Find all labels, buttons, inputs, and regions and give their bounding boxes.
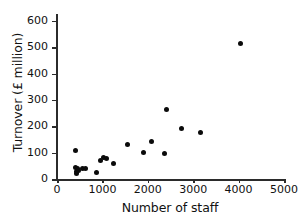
- data-point: [80, 166, 85, 171]
- x-tick-label: 5000: [254, 183, 299, 196]
- y-axis-line: [56, 14, 58, 180]
- data-point: [164, 107, 169, 112]
- data-point: [104, 156, 109, 161]
- y-axis-title: Turnover (£ million): [10, 13, 25, 173]
- data-point: [125, 142, 130, 147]
- x-axis-title: Number of staff: [57, 200, 283, 215]
- data-point: [101, 155, 106, 160]
- data-point: [73, 165, 78, 170]
- data-point: [149, 139, 154, 144]
- y-tick-mark: [52, 100, 56, 102]
- data-point: [162, 151, 167, 156]
- y-tick-mark: [52, 179, 56, 181]
- y-tick-mark: [52, 47, 56, 49]
- y-tick-mark: [52, 153, 56, 155]
- data-point: [198, 130, 203, 135]
- data-point: [94, 170, 99, 175]
- data-point: [83, 166, 88, 171]
- data-point: [74, 171, 79, 176]
- x-axis-line: [56, 179, 286, 181]
- data-point: [73, 148, 78, 153]
- data-point: [75, 166, 80, 171]
- data-point: [98, 158, 103, 163]
- data-point: [74, 169, 79, 174]
- y-tick-mark: [52, 21, 56, 23]
- data-point: [141, 150, 146, 155]
- data-point: [179, 126, 184, 131]
- y-tick-mark: [52, 126, 56, 128]
- scatter-chart: 0100200300400500600 01000200030004000500…: [0, 0, 299, 221]
- data-point: [238, 41, 243, 46]
- data-point: [76, 168, 81, 173]
- y-tick-mark: [52, 74, 56, 76]
- data-point: [111, 161, 116, 166]
